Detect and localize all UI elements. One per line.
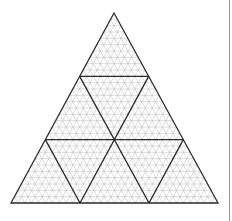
grid-line [128, 121, 173, 203]
grid-line [87, 83, 152, 203]
grid-line [97, 45, 184, 203]
grid-line [56, 121, 101, 203]
triangle-grid-diagram [0, 0, 232, 221]
grid-line [32, 32, 125, 203]
grid-line [142, 133, 180, 203]
grid-line [28, 171, 45, 203]
grid-line [104, 32, 198, 203]
minor-grid-lines [14, 19, 214, 203]
grid-line [115, 108, 167, 203]
grid-line [111, 19, 212, 203]
grid-line [211, 197, 214, 203]
grid-line [14, 197, 17, 203]
grid-line [46, 45, 132, 203]
grid-line [49, 133, 87, 203]
grid-line [42, 146, 73, 203]
grid-line [184, 171, 201, 203]
grid-line [83, 70, 156, 203]
grid-line [35, 159, 59, 203]
grid-line [18, 19, 118, 203]
grid-line [90, 57, 170, 203]
grid-line [63, 108, 115, 203]
grid-line [73, 70, 145, 203]
grid-line [170, 159, 194, 203]
grid-line [76, 83, 142, 203]
grid-line [156, 146, 187, 203]
